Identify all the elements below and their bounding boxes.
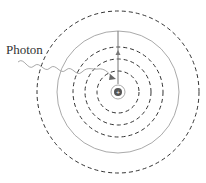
photon-wave: [18, 61, 112, 77]
arrow-up-icon: [116, 50, 121, 55]
atom-diagram: +: [0, 0, 206, 183]
photon-label: Photon: [6, 42, 43, 58]
nucleus-plus: +: [116, 89, 120, 95]
photon-arrow-icon: [109, 74, 116, 80]
